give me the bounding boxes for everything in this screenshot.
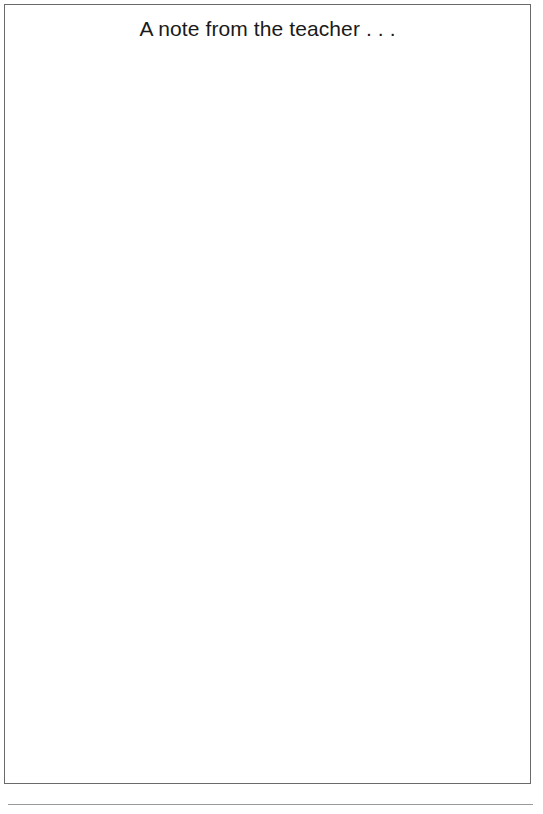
footer-divider [8,804,533,805]
note-writing-area [21,65,514,767]
footer-copyright-text [8,808,533,814]
note-title: A note from the teacher . . . [5,17,530,41]
teacher-note-box: A note from the teacher . . . [4,4,531,784]
